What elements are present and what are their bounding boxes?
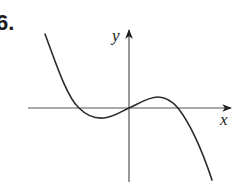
function-graph: y x bbox=[0, 0, 244, 191]
y-axis-label: y bbox=[110, 26, 120, 45]
x-axis-label: x bbox=[219, 110, 228, 129]
